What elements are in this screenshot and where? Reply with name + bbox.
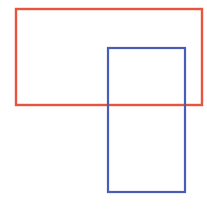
diagram-svg [0,0,207,212]
blue-rectangle [108,48,185,192]
diagram-canvas [0,0,207,212]
